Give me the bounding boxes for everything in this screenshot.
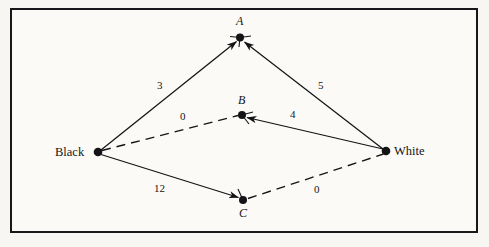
node-label-b: B <box>238 93 245 108</box>
node-label-a: A <box>236 14 243 29</box>
edge-label-white-b: 4 <box>290 108 296 120</box>
node-dot-black <box>94 148 103 157</box>
diagram-page: Black White A B C 3 5 0 4 12 0 <box>0 0 489 247</box>
node-label-black: Black <box>55 145 84 160</box>
edge-label-black-b: 0 <box>180 110 186 122</box>
node-label-white: White <box>394 144 425 159</box>
node-label-c: C <box>239 206 247 221</box>
node-dot-white <box>382 147 391 156</box>
edge-label-black-c: 12 <box>154 182 165 194</box>
edge-label-c-white: 0 <box>314 183 320 195</box>
edge-label-black-a: 3 <box>157 79 163 91</box>
edge-black-to-c <box>101 155 239 198</box>
edge-label-white-a: 5 <box>318 79 324 91</box>
